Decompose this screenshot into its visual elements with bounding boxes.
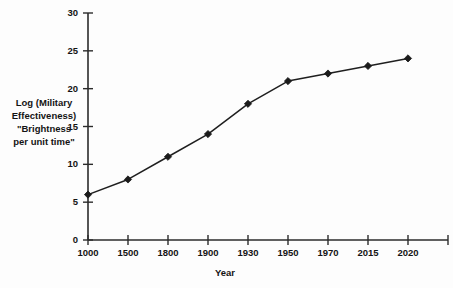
data-point [84, 191, 91, 198]
y-tick-label: 0 [73, 234, 78, 245]
data-point [404, 55, 411, 62]
x-tick-label: 1950 [277, 247, 298, 258]
data-point [324, 70, 331, 77]
data-point [124, 176, 131, 183]
y-tick-label: 10 [67, 158, 78, 169]
data-point [364, 62, 371, 69]
x-axis-tick-labels: 100015001800190019301950197020152020 [77, 247, 418, 258]
y-tick-label: 5 [73, 196, 79, 207]
chart-container: Log (Military Effectiveness) "Brightness… [0, 0, 453, 288]
x-tick-label: 1800 [157, 247, 178, 258]
data-point [284, 78, 291, 85]
data-line-series [88, 58, 408, 194]
data-point [164, 153, 171, 160]
y-tick-label: 30 [67, 7, 78, 18]
y-axis: 051015202530 [67, 7, 93, 245]
x-tick-label: 1000 [77, 247, 98, 258]
chart-plot-area: 051015202530 100015001800190019301950197… [0, 0, 453, 288]
y-tick-label: 15 [67, 121, 78, 132]
x-axis-title: Year [215, 267, 235, 278]
y-axis-tick-labels: 051015202530 [67, 7, 78, 245]
x-axis: 100015001800190019301950197020152020 [77, 235, 448, 258]
x-tick-label: 2015 [357, 247, 379, 258]
x-tick-label: 1930 [237, 247, 258, 258]
x-tick-label: 1900 [197, 247, 218, 258]
x-tick-label: 1500 [117, 247, 138, 258]
x-tick-label: 2020 [397, 247, 418, 258]
x-tick-label: 1970 [317, 247, 338, 258]
y-tick-label: 20 [67, 83, 78, 94]
y-tick-label: 25 [67, 45, 78, 56]
